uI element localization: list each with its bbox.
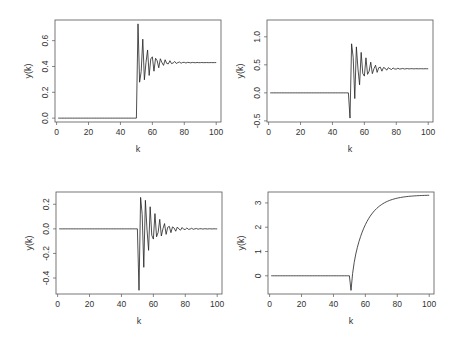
x-tick-label: 60 [360, 127, 370, 137]
x-tick-label: 20 [296, 127, 306, 137]
panel-top-right: 020406080100-0.50.00.51.0ky(k) [235, 20, 436, 154]
y-tick-label: 0.0 [41, 223, 51, 235]
plot-frame [268, 192, 434, 294]
figure: 0204060801000.00.20.40.6ky(k) 0204060801… [0, 0, 457, 337]
x-tick-label: 80 [181, 299, 191, 309]
y-axis-label: y(k) [235, 64, 245, 79]
x-tick-label: 60 [148, 127, 158, 137]
response-line [59, 197, 217, 290]
response-line [58, 24, 216, 118]
x-tick-label: 60 [361, 299, 371, 309]
x-tick-label: 40 [329, 299, 339, 309]
y-tick-label: -0.2 [41, 246, 51, 261]
x-tick-label: 80 [392, 127, 402, 137]
x-tick-label: 100 [209, 127, 223, 137]
x-tick-label: 60 [149, 299, 159, 309]
y-tick-label: 1.0 [252, 31, 262, 43]
y-tick-label: 1 [253, 249, 263, 254]
x-tick-label: 100 [421, 127, 435, 137]
y-tick-label: 0.0 [252, 87, 262, 99]
x-axis-label: k [137, 316, 142, 326]
x-tick-label: 80 [393, 299, 403, 309]
y-axis-label: y(k) [236, 236, 246, 251]
y-axis-label: y(k) [23, 64, 33, 79]
y-axis-label: y(k) [24, 236, 34, 251]
panel-bottom-right: 0204060801000123ky(k) [236, 192, 437, 326]
x-tick-label: 40 [117, 299, 127, 309]
y-tick-label: 2 [253, 225, 263, 230]
x-tick-label: 0 [267, 299, 272, 309]
response-line [270, 44, 428, 118]
x-tick-label: 20 [297, 299, 307, 309]
x-tick-label: 40 [328, 127, 338, 137]
y-tick-label: -0.5 [252, 113, 262, 128]
x-tick-label: 20 [84, 127, 94, 137]
x-tick-label: 0 [54, 127, 59, 137]
x-tick-label: 100 [422, 299, 436, 309]
y-tick-label: 0.4 [40, 60, 50, 72]
panel-bottom-left: 020406080100-0.4-0.20.00.2ky(k) [24, 192, 225, 326]
x-tick-label: 80 [180, 127, 190, 137]
y-tick-label: 0 [253, 273, 263, 278]
x-tick-label: 20 [85, 299, 95, 309]
y-tick-label: 0.5 [252, 59, 262, 71]
x-tick-label: 100 [210, 299, 224, 309]
y-tick-label: 3 [253, 200, 263, 205]
y-tick-label: -0.4 [41, 270, 51, 285]
response-line [271, 195, 429, 290]
y-tick-label: 0.2 [40, 86, 50, 98]
y-tick-label: 0.0 [40, 112, 50, 124]
x-axis-label: k [349, 316, 354, 326]
x-tick-label: 0 [266, 127, 271, 137]
panel-top-left: 0204060801000.00.20.40.6ky(k) [23, 20, 224, 154]
x-tick-label: 0 [55, 299, 60, 309]
y-tick-label: 0.6 [40, 34, 50, 46]
y-tick-label: 0.2 [41, 198, 51, 210]
x-axis-label: k [348, 144, 353, 154]
x-tick-label: 40 [116, 127, 126, 137]
x-axis-label: k [136, 144, 141, 154]
